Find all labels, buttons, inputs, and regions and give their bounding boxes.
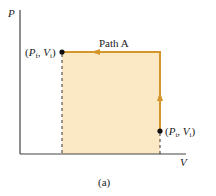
point-initial [157,128,162,133]
initial-point-label: (Pi, Vi) [165,125,196,139]
figure-caption: (a) [98,176,111,189]
point-final [59,49,64,54]
final-point-label: (Pf, Vi) [25,46,56,60]
y-axis-label: P [7,7,15,19]
work-area [62,52,160,154]
path-label: Path A [99,37,129,49]
x-axis-label: V [180,156,188,168]
pv-diagram: P V Path A (Pf, Vi) (Pi, Vi) (a) [0,0,216,196]
